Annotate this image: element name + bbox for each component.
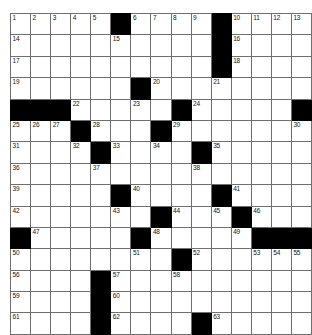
letter-cell[interactable]	[51, 142, 71, 163]
letter-cell[interactable]	[231, 313, 251, 334]
letter-cell[interactable]: 43	[111, 206, 131, 227]
letter-cell[interactable]: 49	[231, 227, 251, 248]
letter-cell[interactable]	[151, 270, 171, 291]
letter-cell[interactable]: 61	[11, 313, 31, 334]
letter-cell[interactable]	[31, 292, 51, 313]
letter-cell[interactable]	[71, 185, 91, 206]
letter-cell[interactable]	[271, 120, 291, 141]
letter-cell[interactable]	[151, 292, 171, 313]
letter-cell[interactable]: 57	[111, 270, 131, 291]
letter-cell[interactable]	[171, 313, 191, 334]
letter-cell[interactable]	[111, 56, 131, 77]
letter-cell[interactable]	[251, 56, 271, 77]
letter-cell[interactable]	[251, 292, 271, 313]
letter-cell[interactable]	[291, 163, 311, 184]
letter-cell[interactable]	[191, 56, 211, 77]
letter-cell[interactable]	[191, 292, 211, 313]
letter-cell[interactable]	[91, 99, 111, 120]
letter-cell[interactable]: 24	[191, 99, 211, 120]
letter-cell[interactable]	[271, 270, 291, 291]
letter-cell[interactable]	[231, 163, 251, 184]
letter-cell[interactable]: 27	[51, 120, 71, 141]
letter-cell[interactable]	[231, 270, 251, 291]
letter-cell[interactable]	[211, 249, 231, 270]
letter-cell[interactable]	[71, 206, 91, 227]
letter-cell[interactable]: 33	[111, 142, 131, 163]
letter-cell[interactable]	[271, 78, 291, 99]
letter-cell[interactable]	[91, 56, 111, 77]
letter-cell[interactable]	[251, 185, 271, 206]
letter-cell[interactable]: 8	[171, 14, 191, 35]
letter-cell[interactable]: 2	[31, 14, 51, 35]
letter-cell[interactable]	[31, 78, 51, 99]
letter-cell[interactable]	[171, 35, 191, 56]
letter-cell[interactable]: 14	[11, 35, 31, 56]
letter-cell[interactable]: 12	[271, 14, 291, 35]
letter-cell[interactable]	[291, 78, 311, 99]
letter-cell[interactable]	[231, 78, 251, 99]
letter-cell[interactable]	[271, 35, 291, 56]
letter-cell[interactable]: 15	[111, 35, 131, 56]
letter-cell[interactable]	[271, 292, 291, 313]
letter-cell[interactable]	[31, 270, 51, 291]
letter-cell[interactable]	[131, 56, 151, 77]
letter-cell[interactable]	[71, 249, 91, 270]
letter-cell[interactable]	[151, 163, 171, 184]
letter-cell[interactable]	[51, 35, 71, 56]
letter-cell[interactable]	[291, 270, 311, 291]
letter-cell[interactable]	[131, 270, 151, 291]
letter-cell[interactable]	[271, 99, 291, 120]
letter-cell[interactable]	[251, 99, 271, 120]
letter-cell[interactable]: 34	[151, 142, 171, 163]
letter-cell[interactable]	[131, 163, 151, 184]
letter-cell[interactable]: 45	[211, 206, 231, 227]
letter-cell[interactable]	[91, 227, 111, 248]
letter-cell[interactable]	[231, 142, 251, 163]
letter-cell[interactable]	[31, 206, 51, 227]
letter-cell[interactable]: 5	[91, 14, 111, 35]
letter-cell[interactable]: 13	[291, 14, 311, 35]
letter-cell[interactable]: 35	[211, 142, 231, 163]
letter-cell[interactable]: 28	[91, 120, 111, 141]
letter-cell[interactable]: 25	[11, 120, 31, 141]
letter-cell[interactable]: 21	[211, 78, 231, 99]
letter-cell[interactable]	[31, 185, 51, 206]
letter-cell[interactable]	[51, 163, 71, 184]
letter-cell[interactable]	[31, 313, 51, 334]
letter-cell[interactable]	[71, 270, 91, 291]
letter-cell[interactable]	[171, 227, 191, 248]
letter-cell[interactable]	[51, 206, 71, 227]
letter-cell[interactable]	[251, 313, 271, 334]
letter-cell[interactable]	[271, 185, 291, 206]
letter-cell[interactable]	[51, 270, 71, 291]
letter-cell[interactable]	[131, 206, 151, 227]
letter-cell[interactable]	[51, 292, 71, 313]
letter-cell[interactable]	[51, 78, 71, 99]
letter-cell[interactable]	[31, 35, 51, 56]
letter-cell[interactable]	[211, 163, 231, 184]
letter-cell[interactable]: 41	[231, 185, 251, 206]
letter-cell[interactable]	[131, 313, 151, 334]
letter-cell[interactable]	[271, 142, 291, 163]
letter-cell[interactable]	[211, 292, 231, 313]
crossword-grid[interactable]: 1234567891011121314151617181920212223242…	[10, 13, 312, 335]
letter-cell[interactable]	[191, 78, 211, 99]
letter-cell[interactable]	[151, 35, 171, 56]
letter-cell[interactable]	[171, 78, 191, 99]
letter-cell[interactable]	[191, 120, 211, 141]
letter-cell[interactable]: 4	[71, 14, 91, 35]
letter-cell[interactable]: 22	[71, 99, 91, 120]
letter-cell[interactable]	[191, 35, 211, 56]
letter-cell[interactable]	[91, 206, 111, 227]
letter-cell[interactable]	[271, 206, 291, 227]
letter-cell[interactable]	[91, 249, 111, 270]
letter-cell[interactable]: 16	[231, 35, 251, 56]
letter-cell[interactable]	[51, 249, 71, 270]
letter-cell[interactable]	[191, 206, 211, 227]
letter-cell[interactable]	[291, 206, 311, 227]
letter-cell[interactable]	[171, 142, 191, 163]
letter-cell[interactable]	[111, 249, 131, 270]
letter-cell[interactable]	[91, 78, 111, 99]
letter-cell[interactable]	[131, 292, 151, 313]
letter-cell[interactable]	[71, 227, 91, 248]
